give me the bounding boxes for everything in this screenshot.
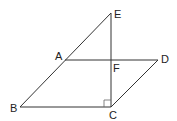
label-c: C [109,109,117,121]
label-b: B [10,102,17,114]
label-a: A [55,50,63,62]
label-e: E [114,8,121,20]
right-angle-mark [104,100,111,107]
label-f: F [113,62,120,74]
label-d: D [161,53,169,65]
geometry-diagram: E A F D B C [0,0,177,121]
